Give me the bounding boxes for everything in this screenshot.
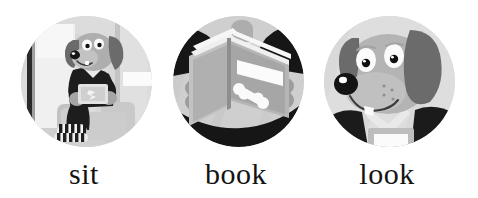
image-open-book-with-bone-cover bbox=[173, 16, 304, 147]
flashcard-book[interactable]: book bbox=[160, 0, 312, 198]
flashcard-label-book: book bbox=[160, 155, 312, 193]
flashcard-look[interactable]: look bbox=[311, 0, 463, 198]
dog-face-closeup-icon bbox=[324, 16, 455, 147]
flashcard-label-sit: sit bbox=[8, 155, 160, 193]
image-dog-sitting-in-chair bbox=[21, 16, 152, 147]
image-dog-face-closeup bbox=[324, 16, 455, 147]
flashcard-board: sit bbox=[0, 0, 478, 198]
flashcard-sit[interactable]: sit bbox=[8, 0, 160, 198]
flashcard-label-look: look bbox=[311, 155, 463, 193]
open-book-scene-icon bbox=[173, 16, 304, 147]
dog-sitting-scene-icon bbox=[21, 16, 152, 147]
